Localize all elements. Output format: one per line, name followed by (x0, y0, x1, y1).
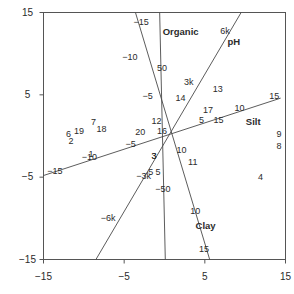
site-point-4: 4 (258, 173, 263, 182)
x-axis-tick-label: 15 (280, 272, 291, 282)
biplot-tick-silt-neg5: −5 (125, 140, 135, 149)
y-axis-tick-label: −15 (19, 255, 36, 265)
x-axis-tick-label: −15 (35, 272, 52, 282)
biplot-tick-organic-neg50: −50 (155, 184, 170, 193)
site-point-20: 20 (135, 127, 145, 136)
site-point-11: 11 (188, 157, 197, 166)
biplot-tick-silt-neg15: −15 (47, 167, 62, 176)
biplot-axis-label-organic: Organic (163, 28, 199, 38)
site-point-1: 1 (89, 150, 94, 159)
biplot-axis-lines (44, 13, 281, 260)
biplot-tick-organic-50: 50 (157, 63, 167, 72)
site-point-14: 14 (176, 94, 186, 103)
ordination-biplot: −15−5515155−5−15Organic50−50pH6k3k−3k−6k… (0, 0, 294, 294)
biplot-tick-clay-15: 15 (199, 244, 209, 253)
biplot-tick-clay-neg5: −5 (142, 92, 152, 101)
y-axis-tick-label: 5 (25, 90, 31, 100)
x-axis-tick-label: 5 (202, 272, 208, 282)
biplot-tick-ph-neg6k: −6k (101, 214, 116, 223)
site-point-15: 15 (214, 115, 224, 124)
biplot-tick-silt-5: 5 (199, 116, 204, 125)
site-point-5: 5 (148, 168, 153, 177)
site-point-9: 9 (277, 130, 282, 139)
biplot-tick-silt-15: 15 (269, 91, 279, 100)
biplot-tick-ph-3k: 3k (184, 77, 194, 86)
biplot-axis-label-silt: Silt (246, 117, 261, 127)
biplot-axis-line-ph (96, 13, 241, 260)
biplot-tick-ph-6k: 6k (220, 26, 230, 35)
plot-vector-layer (0, 0, 294, 294)
biplot-axis-label-ph: pH (228, 37, 241, 47)
site-point-18: 18 (97, 124, 107, 133)
site-point-12: 12 (151, 117, 161, 126)
site-point-16: 16 (157, 127, 167, 136)
site-point-7: 7 (91, 118, 96, 127)
biplot-axis-label-clay: Clay (196, 221, 216, 231)
site-point-13: 13 (213, 85, 223, 94)
y-axis-tick-label: −5 (22, 172, 33, 182)
biplot-tick-clay-5: 5 (156, 168, 161, 177)
site-point-6: 6 (66, 130, 71, 139)
biplot-tick-clay-10: 10 (190, 206, 200, 215)
biplot-tick-clay-neg10: −10 (122, 52, 137, 61)
site-point-19: 19 (74, 127, 84, 136)
biplot-tick-clay-neg15: −15 (133, 17, 148, 26)
site-point-8: 8 (277, 141, 282, 150)
site-point-3: 3 (151, 151, 156, 160)
x-axis-tick-label: −5 (118, 272, 129, 282)
biplot-tick-silt-10: 10 (235, 104, 245, 113)
y-axis-tick-label: 15 (22, 8, 33, 18)
site-point-17: 17 (203, 106, 213, 115)
site-point-10: 10 (176, 145, 186, 154)
